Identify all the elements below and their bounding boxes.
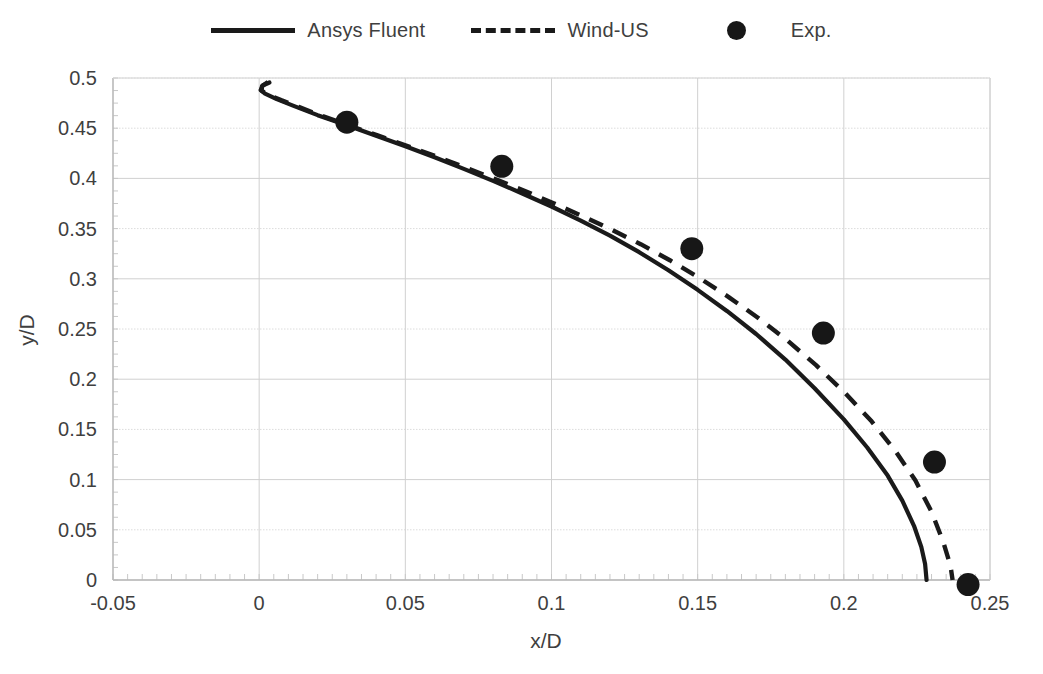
experimental-data-point: [490, 155, 513, 178]
x-tick-label: 0.15: [678, 592, 717, 614]
y-tick-label: 0.05: [58, 519, 97, 541]
experimental-points: [335, 111, 979, 596]
experimental-data-point: [680, 237, 703, 260]
y-tick-label: 0.2: [69, 368, 97, 390]
plot-svg: -0.0500.050.10.150.20.25 00.050.10.150.2…: [0, 0, 1043, 674]
experimental-data-point: [923, 451, 946, 474]
chart-figure: Ansys Fluent Wind-US Exp. -0.0500.050.10…: [0, 0, 1043, 674]
y-tick-label: 0.5: [69, 67, 97, 89]
x-axis-tick-labels: -0.0500.050.10.150.20.25: [90, 592, 1009, 614]
y-axis-tick-labels: 00.050.10.150.20.250.30.350.40.450.5: [58, 67, 97, 591]
y-axis-title: y/D: [15, 314, 38, 346]
y-tick-label: 0: [86, 569, 97, 591]
y-tick-label: 0.4: [69, 167, 97, 189]
y-tick-label: 0.35: [58, 218, 97, 240]
x-tick-label: 0.1: [538, 592, 566, 614]
x-tick-label: 0.2: [830, 592, 858, 614]
y-tick-label: 0.3: [69, 268, 97, 290]
y-tick-label: 0.1: [69, 469, 97, 491]
x-axis-title: x/D: [530, 629, 562, 652]
y-tick-label: 0.25: [58, 318, 97, 340]
y-tick-label: 0.15: [58, 418, 97, 440]
experimental-data-point: [812, 322, 835, 345]
gridlines: [113, 78, 990, 580]
x-tick-label: 0.05: [386, 592, 425, 614]
x-tick-label: 0.25: [971, 592, 1010, 614]
series-line-wind-us: [262, 82, 953, 580]
experimental-data-point: [335, 111, 358, 134]
x-tick-label: -0.05: [90, 592, 136, 614]
plot-area-container: -0.0500.050.10.150.20.25 00.050.10.150.2…: [0, 0, 1043, 674]
y-tick-label: 0.45: [58, 117, 97, 139]
x-tick-label: 0: [254, 592, 265, 614]
data-series: [261, 82, 953, 580]
